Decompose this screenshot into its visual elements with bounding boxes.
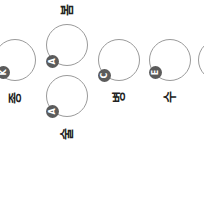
node-badge: A — [46, 105, 59, 118]
node-ring[interactable] — [198, 39, 204, 81]
node-badge: E — [149, 66, 162, 79]
node-label: 술 — [59, 124, 75, 144]
node-label: 수 — [162, 87, 178, 107]
node-label: 병 — [111, 87, 127, 107]
node-badge: C — [98, 69, 111, 82]
node-label: 봄 — [59, 0, 75, 20]
node-label: 종 — [7, 88, 23, 108]
node-badge: A — [46, 55, 59, 68]
